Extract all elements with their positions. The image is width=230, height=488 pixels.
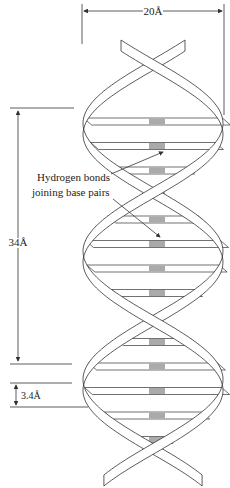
base-pair-rung	[89, 363, 226, 370]
base-pair-rung	[84, 388, 229, 395]
hydrogen-bond	[149, 388, 165, 394]
hydrogen-bond	[149, 168, 165, 174]
annotation-line-1: Hydrogen bonds	[37, 171, 110, 183]
base-pair-rung	[84, 118, 230, 125]
hydrogen-bond	[149, 143, 165, 149]
pitch-dimension: 34Å	[9, 108, 74, 364]
hydrogen-bond	[149, 266, 165, 272]
hydrogen-bond	[149, 364, 165, 370]
base-spacing-label: 3.4Å	[21, 390, 42, 401]
hydrogen-bond	[149, 413, 165, 419]
base-pair-rung	[87, 265, 227, 272]
hydrogen-bond	[149, 217, 165, 223]
hydrogen-bond	[149, 119, 165, 125]
hydrogen-bond	[149, 241, 165, 247]
base-pair-rung	[85, 241, 228, 248]
pitch-label: 34Å	[9, 236, 28, 248]
base-spacing-dimension: 3.4Å	[10, 383, 88, 407]
dna-helix-diagram: 20Å 34Å 3.4Å Hydrogen bonds joining base…	[0, 0, 230, 488]
hydrogen-bond	[149, 339, 165, 345]
hydrogen-bond	[149, 290, 165, 296]
width-label: 20Å	[144, 5, 163, 17]
annotation-line-2: joining base pairs	[31, 186, 110, 198]
base-pair-rung	[91, 143, 224, 150]
